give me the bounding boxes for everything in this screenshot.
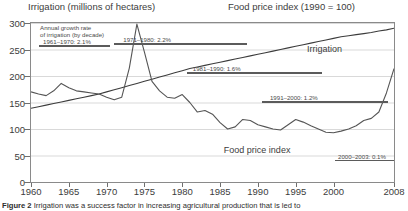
figure-caption: Figure 2 Irrigation was a success factor… bbox=[2, 201, 406, 211]
y-axis-tick-100: 100 bbox=[9, 124, 25, 135]
x-axis-tick-1990: 1990 bbox=[247, 186, 268, 197]
x-axis-tick-labels: 1960196519701975198019851990199520002008 bbox=[30, 186, 395, 200]
series-label-food-price-index: Food price index bbox=[224, 145, 291, 155]
x-axis-tick-2000: 2000 bbox=[323, 186, 344, 197]
x-axis-tick-1995: 1995 bbox=[285, 186, 306, 197]
annotation-bar-1981-1990 bbox=[187, 72, 322, 74]
y-axis-tick-labels: 050100150200250300 bbox=[0, 22, 25, 183]
figure-caption-label: Figure 2 bbox=[2, 201, 32, 210]
annotation-growth-rate-intro: Annual growth rate of irrigation (by dec… bbox=[40, 24, 104, 39]
x-axis-tick-1985: 1985 bbox=[209, 186, 230, 197]
chart-right-axis-title: Food price index (1990 = 100) bbox=[228, 1, 355, 12]
annotation-bar-1991-2000 bbox=[262, 101, 388, 103]
x-axis-tick-1965: 1965 bbox=[58, 186, 79, 197]
annotation-bar-1961-1970 bbox=[39, 45, 111, 47]
y-axis-tick-250: 250 bbox=[9, 44, 25, 55]
y-axis-tick-300: 300 bbox=[9, 18, 25, 29]
annotation-intro-line-1: Annual growth rate bbox=[40, 24, 104, 31]
figure-caption-text: Irrigation was a success factor in incre… bbox=[34, 201, 301, 210]
series-label-irrigation: Irrigation bbox=[307, 44, 342, 54]
annotation-bar-1971-1980 bbox=[114, 43, 246, 45]
annotation-bar-2000-2003 bbox=[335, 160, 394, 162]
x-axis-tick-1975: 1975 bbox=[134, 186, 155, 197]
x-axis-tick-2008: 2008 bbox=[383, 186, 404, 197]
chart-left-axis-title: Irrigation (millions of hectares) bbox=[28, 1, 155, 12]
x-axis-tick-1960: 1960 bbox=[20, 186, 41, 197]
figure-container: Irrigation (millions of hectares) Food p… bbox=[0, 0, 408, 211]
y-axis-tick-150: 150 bbox=[9, 97, 25, 108]
x-axis-tick-1980: 1980 bbox=[172, 186, 193, 197]
x-axis-tick-1970: 1970 bbox=[96, 186, 117, 197]
y-axis-tick-200: 200 bbox=[9, 71, 25, 82]
